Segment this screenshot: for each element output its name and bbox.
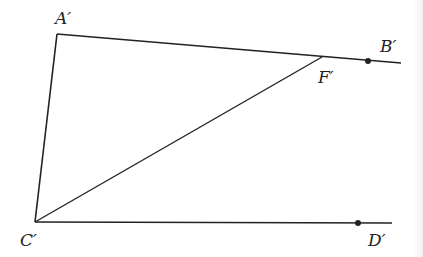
diagram-svg bbox=[0, 0, 423, 257]
label-d-prime: D′ bbox=[368, 232, 386, 249]
label-f-prime: F′ bbox=[318, 69, 334, 86]
point-d-dot bbox=[355, 220, 361, 226]
label-b-prime: B′ bbox=[380, 38, 396, 55]
label-a-prime: A′ bbox=[55, 10, 71, 27]
point-b-dot bbox=[365, 58, 371, 64]
segment-a-c bbox=[35, 34, 57, 222]
geometry-diagram: A′ B′ F′ C′ D′ bbox=[0, 0, 423, 257]
ray-c-d bbox=[35, 222, 392, 223]
label-c-prime: C′ bbox=[20, 232, 37, 249]
ray-a-b bbox=[57, 34, 401, 63]
segment-c-f bbox=[35, 57, 322, 222]
